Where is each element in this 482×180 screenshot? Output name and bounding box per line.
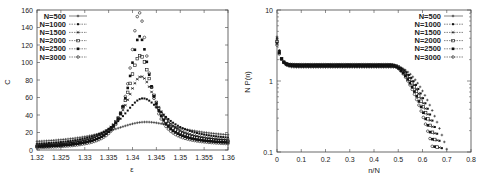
x-tick-label: 1.35 <box>173 154 187 161</box>
left-chart-specific-heat: 1.321.3251.331.3351.341.3451.351.3551.36… <box>0 0 241 180</box>
right-chart-x-label: n/N <box>368 166 380 175</box>
x-tick-label: 1.36 <box>221 154 235 161</box>
y-tick-label: 1 <box>269 78 273 85</box>
y-tick-label: 40 <box>25 112 33 119</box>
x-tick-label: 1.34 <box>126 154 140 161</box>
x-tick-label: 0.4 <box>369 156 379 163</box>
x-tick-label: 0.1 <box>296 156 306 163</box>
y-tick-label: 10 <box>265 7 273 14</box>
legend-label: N=3000 <box>40 53 66 62</box>
figure: 1.321.3251.331.3351.341.3451.351.3551.36… <box>0 0 482 180</box>
right-chart-frame <box>277 10 471 152</box>
left-chart-y-label: C <box>3 79 12 85</box>
x-tick-label: 1.335 <box>100 154 118 161</box>
y-tick-label: 120 <box>21 42 33 49</box>
right-chart-ticks: 00.10.20.30.40.50.60.70.80.1110 <box>263 7 476 164</box>
series-n-3000 <box>276 44 434 148</box>
y-tick-label: 0 <box>29 147 33 154</box>
y-tick-label: 140 <box>21 24 33 31</box>
series-n-2500 <box>276 42 436 148</box>
left-chart-x-label: ε <box>130 165 134 174</box>
x-tick-label: 0 <box>275 156 279 163</box>
x-tick-label: 1.325 <box>52 154 70 161</box>
legend-label: N=3000 <box>415 53 441 62</box>
y-tick-label: 0.1 <box>263 149 273 156</box>
x-tick-label: 0.6 <box>418 156 428 163</box>
y-tick-label: 100 <box>21 59 33 66</box>
y-tick-label: 20 <box>25 129 33 136</box>
x-tick-label: 1.32 <box>30 154 44 161</box>
x-tick-label: 0.8 <box>466 156 476 163</box>
x-tick-label: 0.5 <box>393 156 403 163</box>
x-tick-label: 0.2 <box>321 156 331 163</box>
series-n-1500 <box>36 75 230 146</box>
y-tick-label: 160 <box>21 7 33 14</box>
x-tick-label: 1.33 <box>78 154 92 161</box>
y-tick-label: 60 <box>25 94 33 101</box>
right-chart-distribution: 00.10.20.30.40.50.60.70.80.1110 N P(n) n… <box>241 0 482 180</box>
left-chart-legend: N=500N=1000N=1500N=2000N=2500N=3000 <box>40 12 87 62</box>
right-chart-legend: N=500N=1000N=1500N=2000N=2500N=3000 <box>415 12 463 62</box>
y-tick-label: 80 <box>25 77 33 84</box>
x-tick-label: 1.355 <box>195 154 213 161</box>
x-tick-label: 0.7 <box>442 156 452 163</box>
right-chart-y-label: N P(n) <box>243 71 252 93</box>
x-tick-label: 0.3 <box>345 156 355 163</box>
x-tick-label: 1.345 <box>148 154 166 161</box>
